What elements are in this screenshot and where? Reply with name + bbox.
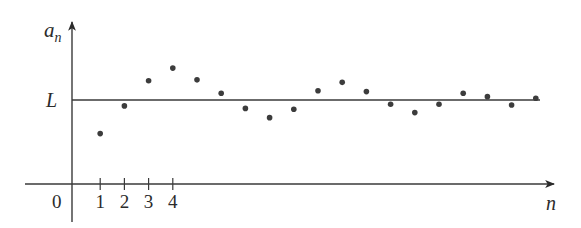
y-axis-label-subscript: n [55,30,62,45]
origin-label: 0 [52,191,62,212]
x-axis-tick-labels: 1234 [95,191,178,212]
limit-label: L [45,89,57,111]
data-point-n5 [194,77,200,83]
data-point-n10 [315,88,321,94]
data-point-n1 [97,131,103,137]
data-point-n2 [122,103,128,109]
x-axis-label: n [546,192,556,214]
data-point-n16 [460,90,466,96]
x-tick-label-1: 1 [95,191,105,212]
sequence-convergence-chart: 1234 0 L an n [0,0,581,228]
data-point-n4 [170,65,176,71]
data-point-n3 [146,78,152,84]
data-point-n12 [364,89,370,95]
data-point-n13 [388,101,394,107]
data-point-n11 [339,80,345,86]
x-tick-label-3: 3 [144,191,154,212]
data-point-n6 [218,90,224,96]
y-axis-label-main: a [44,18,55,42]
data-point-n18 [509,102,515,108]
data-point-n14 [412,110,418,116]
data-point-n8 [267,115,273,121]
x-tick-label-4: 4 [168,191,178,212]
x-tick-label-2: 2 [120,191,130,212]
data-points [97,65,538,136]
data-point-n19 [533,96,539,102]
data-point-n17 [485,94,491,100]
data-point-n9 [291,106,297,112]
data-point-n15 [436,101,442,107]
y-axis-label: an [44,18,62,45]
data-point-n7 [243,106,249,112]
